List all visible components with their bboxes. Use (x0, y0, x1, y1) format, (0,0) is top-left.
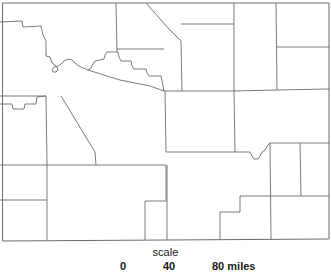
scale-caption: scale (0, 246, 331, 258)
scale-tick-labels: 0 40 80 miles (0, 260, 331, 278)
scale-tick-0: 0 (120, 260, 126, 272)
county-outline-map-figure: scale 0 40 80 miles (0, 0, 331, 280)
scale-bar: scale 0 40 80 miles (0, 246, 331, 280)
map-canvas (0, 0, 331, 280)
scale-tick-40: 40 (163, 260, 175, 272)
scale-tick-80: 80 miles (212, 260, 255, 272)
